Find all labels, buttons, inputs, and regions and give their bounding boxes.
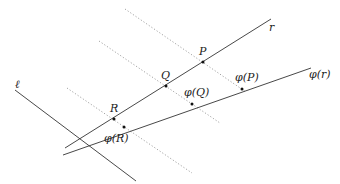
point-p [202, 61, 205, 64]
label-phi-p: φ(P) [235, 71, 259, 84]
solid-lines [15, 19, 311, 181]
label-line-ell: ℓ [15, 78, 20, 91]
points [113, 61, 244, 129]
label-phi-q: φ(Q) [184, 86, 209, 99]
label-line-r: r [269, 21, 275, 34]
projection-line-p [125, 9, 246, 92]
point-phi-p [241, 88, 244, 91]
point-phi-r [123, 126, 126, 129]
point-labels: P Q R φ(P) φ(Q) φ(R) [104, 45, 259, 145]
projection-diagram: r φ(r) ℓ P Q R φ(P) φ(Q) φ(R) [0, 0, 340, 184]
label-p: P [198, 45, 207, 58]
label-r: R [109, 102, 118, 115]
point-phi-q [191, 103, 194, 106]
projection-line-r [67, 88, 192, 173]
point-q [165, 85, 168, 88]
label-phi-r: φ(R) [104, 132, 129, 145]
label-line-phi-r: φ(r) [309, 68, 331, 81]
label-q: Q [161, 69, 170, 82]
point-r [113, 118, 116, 121]
line-phi-r [63, 68, 311, 155]
